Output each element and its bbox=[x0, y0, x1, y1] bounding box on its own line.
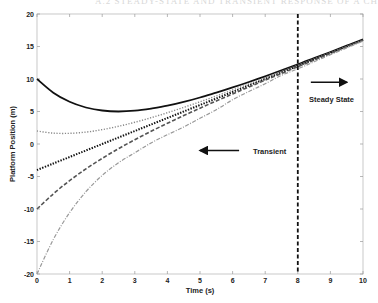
x-axis-label: Time (s) bbox=[186, 286, 215, 295]
x-tick-label: 3 bbox=[133, 277, 137, 284]
plot-axes: 012345678910-20-15-10-505101520 bbox=[24, 11, 367, 285]
x-tick-label: 0 bbox=[35, 277, 39, 284]
plot-series bbox=[37, 39, 363, 274]
transient-label: Transient bbox=[253, 147, 287, 156]
x-tick-label: 10 bbox=[359, 277, 367, 284]
y-axis-label: Platform Position (m) bbox=[8, 106, 17, 182]
y-tick-label: 20 bbox=[26, 11, 34, 18]
y-tick-label: 0 bbox=[30, 141, 34, 148]
plot-frame bbox=[37, 14, 363, 274]
y-tick-label: -5 bbox=[28, 173, 34, 180]
series-line bbox=[37, 41, 363, 274]
line-chart: 012345678910-20-15-10-505101520 Time (s)… bbox=[0, 0, 378, 303]
x-tick-label: 1 bbox=[68, 277, 72, 284]
series-line bbox=[37, 40, 363, 134]
y-tick-label: 5 bbox=[30, 108, 34, 115]
series-line bbox=[37, 40, 363, 209]
y-tick-label: -10 bbox=[24, 206, 34, 213]
x-tick-label: 7 bbox=[263, 277, 267, 284]
y-tick-label: -20 bbox=[24, 271, 34, 278]
x-tick-label: 2 bbox=[100, 277, 104, 284]
plot-annotations bbox=[200, 14, 347, 274]
x-tick-label: 4 bbox=[165, 277, 169, 284]
y-tick-label: 15 bbox=[26, 43, 34, 50]
y-tick-label: -15 bbox=[24, 238, 34, 245]
x-tick-label: 6 bbox=[231, 277, 235, 284]
x-tick-label: 8 bbox=[296, 277, 300, 284]
x-tick-label: 9 bbox=[328, 277, 332, 284]
y-tick-label: 10 bbox=[26, 76, 34, 83]
x-tick-label: 5 bbox=[198, 277, 202, 284]
steady-state-label: Steady State bbox=[309, 95, 354, 104]
